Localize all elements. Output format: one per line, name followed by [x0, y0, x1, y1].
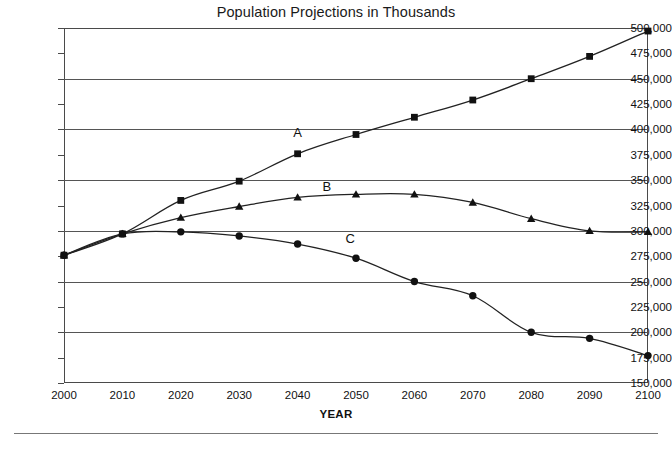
y-axis-tick-label: 250,000: [614, 276, 672, 288]
y-axis-tick-label: 450,000: [614, 73, 672, 85]
series-label-B: B: [322, 179, 331, 194]
y-axis-tick-label: 325,000: [614, 200, 672, 212]
x-axis-tick-label: 2070: [460, 389, 486, 401]
y-axis-tick-mark: [58, 180, 64, 181]
y-axis-tick-mark: [58, 155, 64, 156]
plot-area: [64, 28, 648, 383]
chart-page: Population Projections in Thousands 150,…: [0, 0, 672, 449]
y-axis-tick-mark: [58, 79, 64, 80]
y-axis-tick-label: 175,000: [614, 352, 672, 364]
y-axis-tick-mark: [58, 383, 64, 384]
y-axis-tick-label: 275,000: [614, 250, 672, 262]
x-axis-tick-label: 2000: [51, 389, 77, 401]
chart-title: Population Projections in Thousands: [0, 4, 672, 20]
y-axis-tick-mark: [58, 104, 64, 105]
x-axis-tick-label: 2060: [402, 389, 428, 401]
y-axis-tick-label: 225,000: [614, 301, 672, 313]
y-axis-tick-label: 300,000: [614, 225, 672, 237]
gridline: [64, 180, 648, 181]
y-axis-tick-mark: [58, 28, 64, 29]
y-axis-tick-mark: [58, 206, 64, 207]
y-axis-tick-label: 475,000: [614, 47, 672, 59]
footer-divider: [14, 433, 658, 434]
y-axis-tick-mark: [58, 129, 64, 130]
y-axis-tick-mark: [58, 231, 64, 232]
y-axis-tick-label: 400,000: [614, 123, 672, 135]
x-axis-tick-label: 2100: [635, 389, 661, 401]
gridline: [64, 79, 648, 80]
y-axis-tick-label: 500,000: [614, 22, 672, 34]
series-label-A: A: [293, 125, 302, 140]
y-axis-tick-mark: [58, 358, 64, 359]
y-axis-tick-label: 350,000: [614, 174, 672, 186]
y-axis-tick-label: 425,000: [614, 98, 672, 110]
x-axis-tick-label: 2030: [226, 389, 252, 401]
y-axis-tick-mark: [58, 307, 64, 308]
y-axis-tick-mark: [58, 282, 64, 283]
gridline: [64, 332, 648, 333]
y-axis-tick-label: 200,000: [614, 326, 672, 338]
x-axis-tick-label: 2020: [168, 389, 194, 401]
x-axis-tick-label: 2010: [110, 389, 136, 401]
y-axis-tick-label: 375,000: [614, 149, 672, 161]
gridline: [64, 129, 648, 130]
gridline: [64, 282, 648, 283]
y-axis-tick-mark: [58, 332, 64, 333]
x-axis-tick-label: 2040: [285, 389, 311, 401]
y-axis-tick-mark: [58, 53, 64, 54]
x-axis-tick-label: 2080: [518, 389, 544, 401]
y-axis-tick-label: 150,000: [614, 377, 672, 389]
x-axis-tick-label: 2050: [343, 389, 369, 401]
series-label-C: C: [345, 230, 354, 245]
x-axis-title: YEAR: [0, 408, 672, 420]
y-axis-tick-mark: [58, 256, 64, 257]
x-axis-tick-label: 2090: [577, 389, 603, 401]
gridline: [64, 231, 648, 232]
